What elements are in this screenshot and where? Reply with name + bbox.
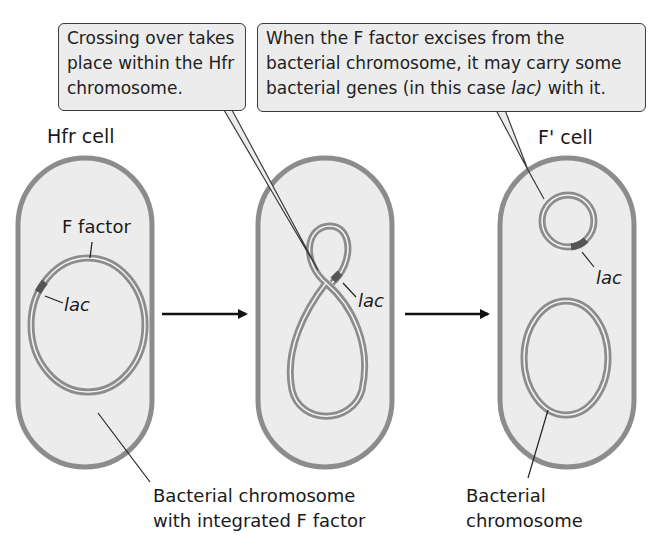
lac-label-hfr: lac: [64, 292, 90, 317]
hfr-chromosome-label-line2: with integrated F factor: [153, 508, 365, 533]
f-factor-label: F factor: [62, 214, 131, 239]
crossing-over-text: Crossing over takes place within the Hfr…: [67, 28, 234, 98]
hfr-chromosome-label: Bacterial chromosome with integrated F f…: [153, 483, 365, 533]
lac-label-fprime: lac: [596, 265, 622, 290]
f-prime-cell-title: F' cell: [538, 125, 593, 150]
excision-gene: lac): [511, 78, 542, 98]
f-prime-cell: [500, 158, 634, 478]
hfr-chromosome-label-line1: Bacterial chromosome: [153, 483, 365, 508]
lac-label-crossing: lac: [358, 288, 384, 313]
hfr-cell: [18, 158, 152, 482]
fprime-chromosome-label-line2: chromosome: [466, 508, 583, 533]
fprime-chromosome-label-line1: Bacterial: [466, 483, 583, 508]
crossing-over-callout: Crossing over takes place within the Hfr…: [58, 23, 246, 111]
lac-marker: [333, 273, 340, 280]
excision-text-suffix: with it.: [542, 78, 606, 98]
excision-callout: When the F factor excises from the bacte…: [257, 23, 646, 112]
hfr-cell-title: Hfr cell: [47, 124, 115, 149]
fprime-chromosome-label: Bacterial chromosome: [466, 483, 583, 533]
